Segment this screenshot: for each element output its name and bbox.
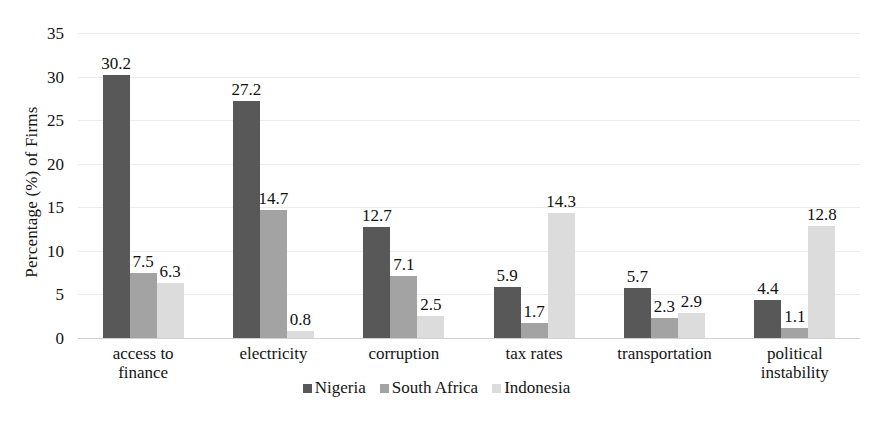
grouped-bar-chart: Percentage (%) of Firms 35302520151050 3… — [0, 0, 873, 429]
bar-slot: 2.3 — [651, 33, 678, 338]
bar-value-label: 7.5 — [133, 253, 154, 270]
bar-cluster: 5.72.32.9 — [624, 33, 705, 338]
bar-value-label: 14.3 — [546, 193, 576, 210]
bar-value-label: 1.1 — [784, 308, 805, 325]
legend-item-south-africa[interactable]: South Africa — [380, 379, 478, 396]
y-tick-5: 5 — [56, 286, 65, 303]
y-tick-0: 0 — [56, 330, 65, 347]
bar-slot: 27.2 — [233, 33, 260, 338]
y-tick-10: 10 — [47, 242, 64, 259]
chart-legend: NigeriaSouth AfricaIndonesia — [0, 379, 873, 396]
legend-label: South Africa — [392, 379, 478, 396]
x-axis-label-electricity: electricity — [208, 344, 338, 382]
bar-slot: 1.7 — [521, 33, 548, 338]
bar[interactable] — [287, 331, 314, 338]
bar-value-label: 12.8 — [807, 206, 837, 223]
bar-group: 4.41.112.8 — [730, 33, 860, 338]
bar-cluster: 30.27.56.3 — [103, 33, 184, 338]
bar[interactable] — [494, 287, 521, 338]
legend-item-indonesia[interactable]: Indonesia — [492, 379, 570, 396]
bar-slot: 14.7 — [260, 33, 287, 338]
x-axis-label-access-to-finance: access tofinance — [78, 344, 208, 382]
bar-value-label: 1.7 — [524, 303, 545, 320]
bar-cluster: 27.214.70.8 — [233, 33, 314, 338]
bar[interactable] — [548, 213, 575, 338]
plot-area: 30.27.56.327.214.70.812.77.12.55.91.714.… — [78, 33, 860, 338]
bar[interactable] — [754, 300, 781, 338]
bar-cluster: 4.41.112.8 — [754, 33, 835, 338]
bar-slot: 5.7 — [624, 33, 651, 338]
bar-value-label: 5.9 — [497, 267, 518, 284]
bar-slot: 6.3 — [157, 33, 184, 338]
bar-cluster: 5.91.714.3 — [494, 33, 575, 338]
bar-value-label: 14.7 — [259, 190, 289, 207]
bar[interactable] — [678, 313, 705, 338]
bar-value-label: 6.3 — [160, 263, 181, 280]
bar[interactable] — [390, 276, 417, 338]
bar[interactable] — [808, 226, 835, 338]
legend-label: Nigeria — [315, 379, 366, 396]
y-tick-30: 30 — [47, 68, 64, 85]
bar[interactable] — [233, 101, 260, 338]
bar-value-label: 5.7 — [627, 268, 648, 285]
axis-baseline — [78, 338, 860, 339]
legend-item-nigeria[interactable]: Nigeria — [303, 379, 366, 396]
bar-cluster: 12.77.12.5 — [363, 33, 444, 338]
legend-swatch-icon — [492, 384, 501, 393]
y-tick-15: 15 — [47, 199, 64, 216]
y-tick-25: 25 — [47, 112, 64, 129]
x-axis-label-transportation: transportation — [599, 344, 729, 382]
y-axis-tick-labels: 35302520151050 — [0, 33, 72, 338]
bar-slot: 30.2 — [103, 33, 130, 338]
bar[interactable] — [363, 227, 390, 338]
bar[interactable] — [157, 283, 184, 338]
x-axis-label-political-instability: politicalinstability — [730, 344, 860, 382]
bar[interactable] — [651, 318, 678, 338]
bar[interactable] — [781, 328, 808, 338]
bar[interactable] — [624, 288, 651, 338]
bar-group: 5.91.714.3 — [469, 33, 599, 338]
bar-slot: 14.3 — [548, 33, 575, 338]
bar-group: 5.72.32.9 — [599, 33, 729, 338]
bar-slot: 7.5 — [130, 33, 157, 338]
legend-label: Indonesia — [504, 379, 570, 396]
bar-slot: 12.8 — [808, 33, 835, 338]
bar[interactable] — [103, 75, 130, 338]
bar-slot: 4.4 — [754, 33, 781, 338]
bar-slot: 12.7 — [363, 33, 390, 338]
bar[interactable] — [260, 210, 287, 338]
bar-value-label: 0.8 — [290, 311, 311, 328]
bar-group: 30.27.56.3 — [78, 33, 208, 338]
bar[interactable] — [130, 273, 157, 338]
bar[interactable] — [521, 323, 548, 338]
bar-slot: 1.1 — [781, 33, 808, 338]
bar-slot: 0.8 — [287, 33, 314, 338]
bar-value-label: 7.1 — [393, 256, 414, 273]
bar-slot: 2.9 — [678, 33, 705, 338]
bar[interactable] — [417, 316, 444, 338]
bar-group: 27.214.70.8 — [208, 33, 338, 338]
bar-groups: 30.27.56.327.214.70.812.77.12.55.91.714.… — [78, 33, 860, 338]
bar-slot: 5.9 — [494, 33, 521, 338]
bar-value-label: 12.7 — [362, 207, 392, 224]
bar-value-label: 27.2 — [232, 81, 262, 98]
legend-swatch-icon — [303, 384, 312, 393]
bar-value-label: 2.9 — [681, 293, 702, 310]
bar-value-label: 4.4 — [757, 280, 778, 297]
bar-group: 12.77.12.5 — [339, 33, 469, 338]
y-tick-20: 20 — [47, 155, 64, 172]
legend-swatch-icon — [380, 384, 389, 393]
x-axis-category-labels: access tofinanceelectricitycorruptiontax… — [78, 344, 860, 382]
bar-slot: 7.1 — [390, 33, 417, 338]
bar-value-label: 2.5 — [420, 296, 441, 313]
x-axis-label-tax-rates: tax rates — [469, 344, 599, 382]
bar-value-label: 2.3 — [654, 298, 675, 315]
x-axis-label-corruption: corruption — [339, 344, 469, 382]
bar-value-label: 30.2 — [101, 55, 131, 72]
bar-slot: 2.5 — [417, 33, 444, 338]
y-tick-35: 35 — [47, 25, 64, 42]
